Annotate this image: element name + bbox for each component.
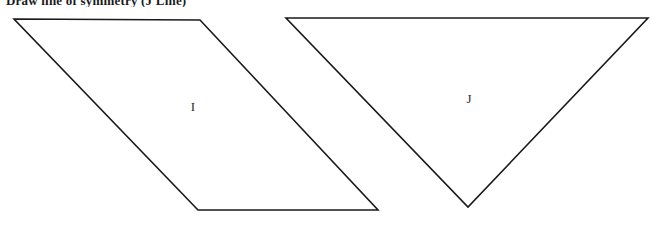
shapes-diagram: I J [0,0,662,225]
figure-canvas: Draw line of symmetry (J Line) I J [0,0,662,225]
shape-label-j: J [466,91,471,106]
shape-label-i: I [191,99,195,114]
